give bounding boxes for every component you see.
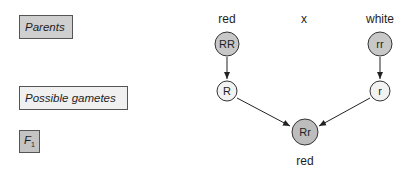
cross-diagram: red x white RR rr R r Rr red	[0, 0, 414, 172]
offspring-phenotype: red	[296, 154, 313, 168]
gamete2-to-offspring-arrow	[319, 98, 370, 126]
offspring-genotype: Rr	[299, 126, 311, 138]
cross-symbol: x	[301, 12, 307, 26]
parent2-phenotype: white	[365, 12, 394, 26]
gamete1-to-offspring-arrow	[237, 98, 290, 126]
parent1-genotype: RR	[219, 38, 235, 50]
gamete1-allele: R	[223, 85, 231, 97]
parent1-phenotype: red	[218, 12, 235, 26]
parent2-genotype: rr	[376, 38, 384, 50]
gamete2-allele: r	[378, 85, 382, 97]
